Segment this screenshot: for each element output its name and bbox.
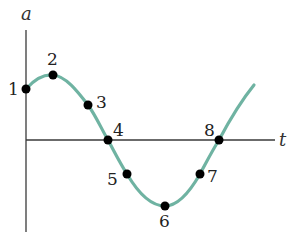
point-1: 1 (8, 79, 31, 99)
acceleration-time-graph: a t 1 2 3 4 5 6 7 8 (0, 0, 298, 244)
point-label: 1 (8, 79, 19, 99)
point-label: 2 (47, 49, 58, 69)
point-label: 7 (207, 166, 218, 186)
point-marker (84, 101, 93, 110)
point-marker (196, 170, 205, 179)
point-6: 6 (159, 202, 170, 232)
point-8: 8 (204, 120, 224, 145)
point-label: 8 (204, 120, 215, 140)
point-marker (22, 85, 31, 94)
point-label: 4 (113, 120, 124, 140)
point-marker (104, 136, 113, 145)
point-5: 5 (107, 169, 132, 189)
y-axis-label: a (21, 3, 32, 24)
point-marker (123, 170, 132, 179)
point-2: 2 (47, 49, 58, 80)
point-3: 3 (84, 92, 107, 112)
point-marker (161, 202, 170, 211)
point-marker (215, 136, 224, 145)
point-4: 4 (104, 120, 124, 145)
point-7: 7 (196, 166, 218, 186)
point-label: 3 (96, 92, 107, 112)
point-label: 6 (159, 211, 170, 231)
point-label: 5 (107, 169, 118, 189)
x-axis-label: t (279, 129, 287, 150)
point-marker (49, 71, 58, 80)
